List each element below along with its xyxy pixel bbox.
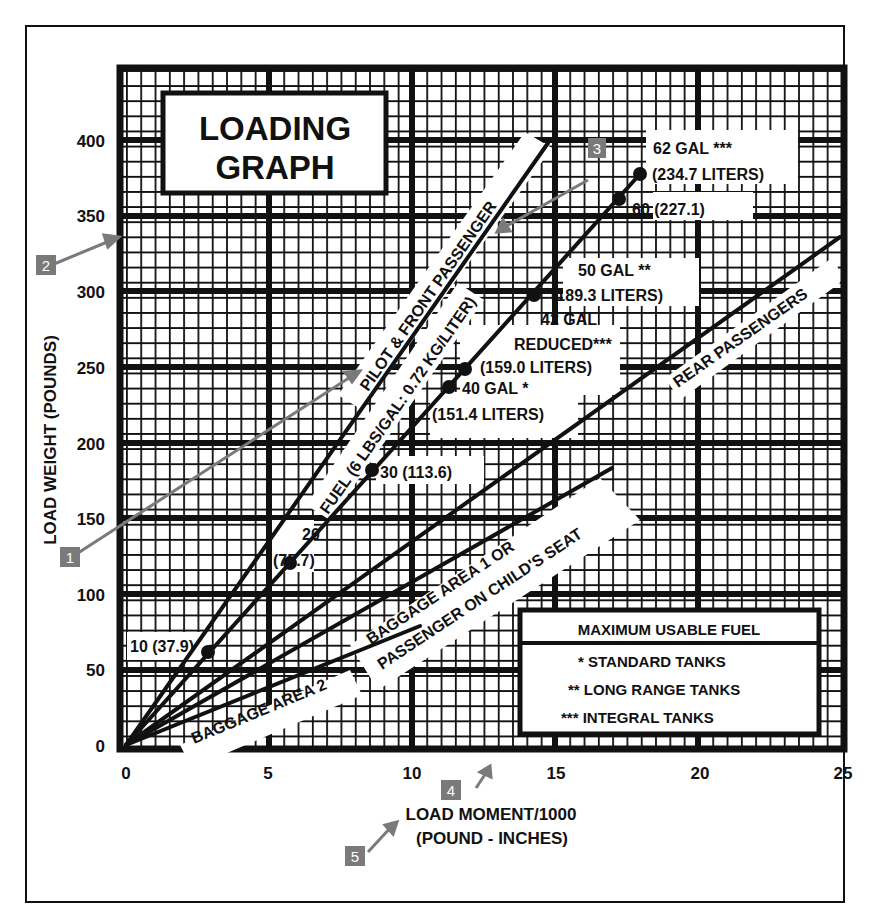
x-tick-0: 0	[121, 764, 130, 783]
chart-title-line1: LOADING	[199, 110, 351, 147]
svg-text:2: 2	[42, 257, 50, 274]
callout-2: 2	[36, 255, 56, 275]
x-tick-10: 10	[403, 764, 422, 783]
svg-text:4: 4	[447, 782, 455, 799]
loading-graph-chart: LOADING GRAPH PILOT &	[0, 0, 883, 917]
fuel-point-40	[442, 380, 456, 394]
x-axis-title-line1: LOAD MOMENT/1000	[406, 805, 577, 824]
fuel-point-42	[458, 362, 472, 376]
label-50-gal-liters: (189.3 LITERS)	[551, 287, 663, 304]
y-tick-100: 100	[77, 586, 105, 605]
label-42-gal: 42 GAL	[541, 311, 597, 328]
y-tick-50: 50	[86, 661, 105, 680]
y-tick-300: 300	[77, 283, 105, 302]
x-tick-5: 5	[263, 764, 272, 783]
callout-1: 1	[60, 547, 80, 567]
label-42-gal-reduced: REDUCED***	[514, 336, 613, 353]
y-tick-400: 400	[77, 132, 105, 151]
legend-integral-tanks: *** INTEGRAL TANKS	[561, 709, 714, 726]
legend-standard-tanks: * STANDARD TANKS	[578, 653, 726, 670]
legend-box: MAXIMUM USABLE FUEL * STANDARD TANKS ** …	[520, 610, 819, 734]
callout-5: 5	[345, 846, 365, 866]
label-42-gal-liters: (159.0 LITERS)	[480, 359, 592, 376]
label-40-gal: 40 GAL *	[462, 380, 529, 397]
chart-title-line2: GRAPH	[215, 149, 334, 186]
chart-title-box: LOADING GRAPH	[163, 93, 386, 193]
x-tick-20: 20	[691, 764, 710, 783]
y-axis-title: LOAD WEIGHT (POUNDS)	[41, 335, 60, 545]
y-axis-ticks: 0 50 100 150 200 250 300 350 400	[77, 132, 105, 756]
fuel-point-50	[527, 288, 541, 302]
fuel-point-60	[612, 192, 626, 206]
label-20-gal: 20	[302, 526, 320, 543]
label-10-gal: 10 (37.9)	[130, 638, 194, 655]
svg-text:5: 5	[351, 848, 359, 865]
label-60-gal: 60 (227.1)	[632, 201, 705, 218]
fuel-point-30	[365, 463, 379, 477]
label-40-gal-liters: (151.4 LITERS)	[432, 406, 544, 423]
callout-4: 4	[441, 780, 461, 800]
x-tick-25: 25	[834, 764, 853, 783]
y-tick-200: 200	[77, 435, 105, 454]
x-axis-title-line2: (POUND - INCHES)	[416, 829, 568, 848]
legend-title: MAXIMUM USABLE FUEL	[578, 621, 761, 638]
label-62-gal: 62 GAL ***	[653, 140, 733, 157]
label-20-gal-liters: (75.7)	[273, 552, 315, 569]
label-62-gal-liters: (234.7 LITERS)	[652, 166, 764, 183]
label-30-gal: 30 (113.6)	[380, 464, 452, 481]
y-tick-350: 350	[77, 207, 105, 226]
fuel-point-62	[633, 167, 647, 181]
legend-long-range-tanks: ** LONG RANGE TANKS	[568, 681, 740, 698]
svg-text:1: 1	[66, 549, 74, 566]
callout-3: 3	[588, 138, 606, 158]
y-tick-250: 250	[77, 359, 105, 378]
x-tick-15: 15	[547, 764, 566, 783]
fuel-point-10	[201, 645, 215, 659]
y-tick-0: 0	[96, 737, 105, 756]
svg-text:3: 3	[593, 140, 601, 157]
y-tick-150: 150	[77, 510, 105, 529]
label-50-gal: 50 GAL **	[578, 262, 651, 279]
